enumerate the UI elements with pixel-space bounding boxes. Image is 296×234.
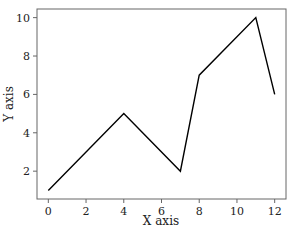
y-axis-label: Y axis bbox=[2, 86, 16, 123]
y-tick-label: 10 bbox=[16, 12, 30, 25]
x-tick-label: 8 bbox=[196, 205, 203, 218]
x-axis-label: X axis bbox=[143, 214, 179, 228]
plot-area bbox=[37, 9, 286, 199]
x-tick-label: 2 bbox=[83, 205, 90, 218]
y-tick-label: 2 bbox=[23, 165, 30, 178]
x-tick-label: 12 bbox=[268, 205, 282, 218]
x-tick-label: 0 bbox=[45, 205, 52, 218]
y-tick-label: 4 bbox=[23, 127, 30, 140]
y-axis-ticks: 246810 bbox=[16, 12, 37, 179]
y-tick-label: 8 bbox=[23, 50, 30, 63]
line-chart: 024681012 246810 X axis Y axis bbox=[0, 0, 296, 234]
x-tick-label: 10 bbox=[230, 205, 244, 218]
axes-frame bbox=[37, 9, 286, 199]
x-tick-label: 4 bbox=[120, 205, 127, 218]
y-tick-label: 6 bbox=[23, 88, 30, 101]
